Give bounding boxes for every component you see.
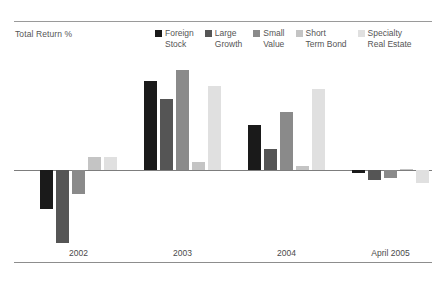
legend-swatch-icon [205,30,212,37]
bar[interactable] [176,70,189,170]
top-divider-rule [14,21,432,22]
bar[interactable] [40,170,53,209]
chart-legend: ForeignStockLargeGrowthSmallValueShortTe… [155,28,412,49]
plot-area [14,60,432,245]
legend-label-line2: Stock [165,39,194,50]
legend-label: LargeGrowth [215,28,242,49]
bar[interactable] [296,166,309,170]
bar[interactable] [104,157,117,170]
legend-item[interactable]: LargeGrowth [205,28,242,49]
legend-item[interactable]: ShortTerm Bond [296,28,347,49]
bar[interactable] [72,170,85,194]
legend-label-line1: Short [306,28,326,38]
legend-item[interactable]: ForeignStock [155,28,194,49]
x-axis-label: 2003 [173,248,192,258]
bar[interactable] [416,170,429,183]
legend-label-line2: Growth [215,39,242,50]
legend-label-line2: Value [263,39,284,50]
legend-swatch-icon [253,30,260,37]
total-return-bar-chart: Total Return % ForeignStockLargeGrowthSm… [0,0,446,283]
x-axis-label: 2002 [69,248,88,258]
bar[interactable] [312,89,325,170]
bar[interactable] [400,169,413,171]
bar[interactable] [88,157,101,170]
bar-group [144,60,230,245]
legend-swatch-icon [358,30,365,37]
legend-label-line1: Foreign [165,28,194,38]
x-axis-category-labels: 200220032004April 2005 [14,248,432,260]
bar[interactable] [160,99,173,170]
legend-label-line1: Large [215,28,237,38]
bar[interactable] [352,170,365,173]
legend-swatch-icon [155,30,162,37]
bar[interactable] [208,86,221,170]
legend-label-line1: Small [263,28,284,38]
x-axis-label: April 2005 [371,248,409,258]
bar-group [352,60,438,245]
bar[interactable] [248,125,261,170]
legend-label: ForeignStock [165,28,194,49]
legend-item[interactable]: SmallValue [253,28,284,49]
bar[interactable] [368,170,381,180]
bar[interactable] [384,170,397,178]
bar[interactable] [144,81,157,170]
bar[interactable] [264,149,277,170]
legend-label-line2: Real Estate [368,39,412,50]
bar-group [248,60,334,245]
legend-label: ShortTerm Bond [306,28,347,49]
legend-swatch-icon [296,30,303,37]
legend-label: SpecialtyReal Estate [368,28,412,49]
bar-group [40,60,126,245]
x-axis-label: 2004 [277,248,296,258]
bar[interactable] [280,112,293,170]
legend-item[interactable]: SpecialtyReal Estate [358,28,412,49]
legend-label-line1: Specialty [368,28,403,38]
legend-label: SmallValue [263,28,284,49]
legend-label-line2: Term Bond [306,39,347,50]
y-axis-title: Total Return % [15,29,72,39]
bottom-divider-rule [14,262,432,263]
bar[interactable] [192,162,205,170]
bar[interactable] [56,170,69,243]
